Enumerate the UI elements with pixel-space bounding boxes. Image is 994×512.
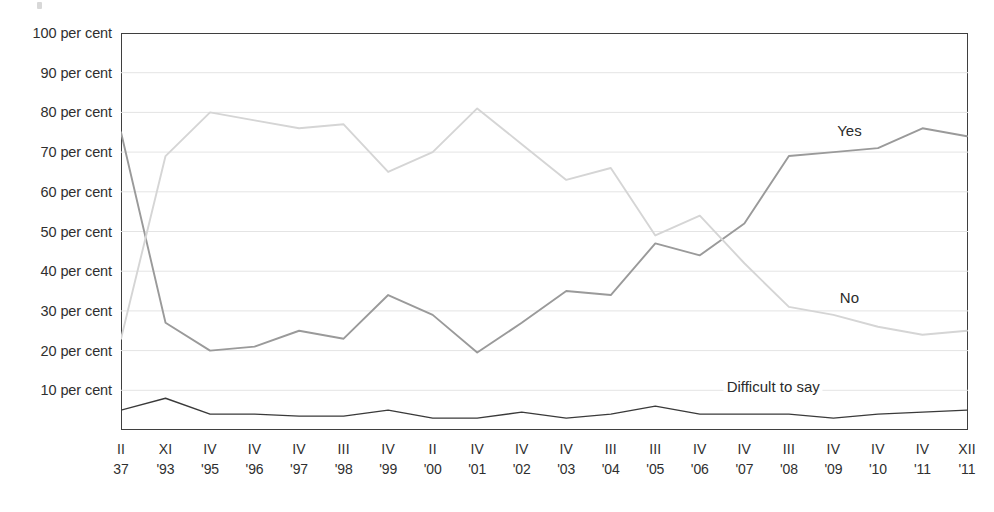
plot-area xyxy=(121,33,968,430)
y-tick-label: 10 per cent xyxy=(0,382,112,398)
y-tick-label: 80 per cent xyxy=(0,104,112,120)
y-tick-label: 30 per cent xyxy=(0,303,112,319)
y-tick-label: 40 per cent xyxy=(0,263,112,279)
y-tick-label: 70 per cent xyxy=(0,144,112,160)
x-tick-label: XII'11 xyxy=(937,440,994,479)
x-tick-roman: XII xyxy=(937,440,994,459)
y-tick-label: 60 per cent xyxy=(0,184,112,200)
x-axis: II37XI'93IV'95IV'96IV'97III'98IV'99II'00… xyxy=(121,440,968,500)
series-label-yes: Yes xyxy=(834,122,864,139)
y-tick-label: 100 per cent xyxy=(0,25,112,41)
y-tick-label: 50 per cent xyxy=(0,224,112,240)
line-chart: 100 per cent90 per cent80 per cent70 per… xyxy=(0,0,994,512)
gridlines xyxy=(121,73,968,391)
y-axis: 100 per cent90 per cent80 per cent70 per… xyxy=(0,0,112,512)
series-label-no: No xyxy=(837,289,862,306)
y-tick-label: 90 per cent xyxy=(0,65,112,81)
y-tick-label: 20 per cent xyxy=(0,343,112,359)
series-line-difficult-to-say xyxy=(121,398,967,418)
series-canvas xyxy=(121,33,968,430)
x-tick-year: '11 xyxy=(937,459,994,479)
series-label-difficult-to-say: Difficult to say xyxy=(724,378,823,395)
